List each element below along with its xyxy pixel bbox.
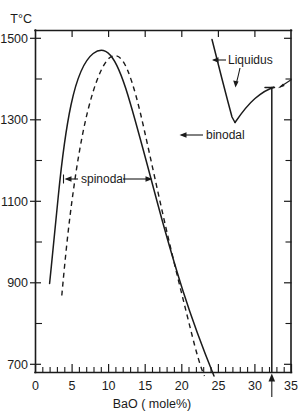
x-tick-label-0: 0 bbox=[32, 379, 39, 393]
axes-frame bbox=[35, 30, 292, 373]
phase-diagram-figure: Liquidus binodal spinodal bbox=[0, 0, 304, 413]
spinodal-curve bbox=[62, 56, 205, 376]
liquidus-left-arrow-icon bbox=[212, 57, 226, 62]
x-tick-label-10: 10 bbox=[102, 379, 116, 393]
x-axis-title: BaO ( mole%) bbox=[113, 397, 192, 411]
liquidus-label: Liquidus bbox=[228, 53, 273, 67]
x-tick-label-20: 20 bbox=[175, 379, 189, 393]
chart-svg: Liquidus binodal spinodal bbox=[0, 0, 304, 413]
binodal-label: binodal bbox=[206, 128, 245, 142]
x-axis-minor-ticks bbox=[43, 367, 284, 372]
x-tick-label-5: 5 bbox=[69, 379, 76, 393]
y-tick-label-700: 700 bbox=[7, 358, 28, 372]
x-tick-label-35: 35 bbox=[284, 379, 298, 393]
y-tick-label-1100: 1100 bbox=[1, 195, 28, 209]
y-tick-label-900: 900 bbox=[7, 276, 28, 290]
y-tick-label-1500: 1500 bbox=[0, 32, 28, 46]
x-tick-label-25: 25 bbox=[211, 379, 225, 393]
x-tick-label-30: 30 bbox=[248, 379, 262, 393]
binodal-arrow-icon bbox=[180, 132, 204, 138]
spinodal-label: spinodal bbox=[81, 172, 126, 186]
y-axis-title: T°C bbox=[10, 12, 32, 26]
composition-marker-arrow-icon bbox=[269, 374, 276, 398]
liquidus-rising-branch bbox=[235, 87, 274, 122]
x-axis-major-ticks bbox=[36, 364, 292, 372]
x-axis-top-ticks bbox=[72, 31, 255, 38]
x-tick-labels: 0 5 10 15 20 25 30 35 bbox=[32, 379, 298, 393]
liquidus-down-arrow-icon bbox=[233, 68, 240, 88]
y-tick-label-1300: 1300 bbox=[0, 113, 28, 127]
liquidus-descending-branch bbox=[212, 40, 235, 123]
right-edge-arrow-icon bbox=[278, 80, 292, 89]
y-tick-labels: 1500 1300 1100 900 700 bbox=[0, 32, 28, 372]
x-tick-label-15: 15 bbox=[138, 379, 152, 393]
